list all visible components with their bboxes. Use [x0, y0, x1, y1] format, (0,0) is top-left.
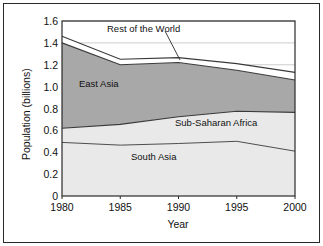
area-south-asia	[62, 141, 295, 196]
series-label-sub-saharan-africa: Sub-Saharan Africa	[175, 117, 257, 128]
chart-figure: 1.6 1.4 1.2 1.0 0.8 0.6 0.4 0.2 0 1980 1…	[0, 0, 323, 246]
x-tick-1980: 1980	[40, 201, 84, 213]
x-tick-1990: 1990	[157, 201, 201, 213]
y-tick-0.8: 0.8	[28, 103, 58, 115]
series-label-rest-of-the-world: Rest of the World	[107, 23, 180, 34]
series-label-south-asia: South Asia	[131, 151, 176, 162]
x-tick-1995: 1995	[215, 201, 259, 213]
y-tick-0.6: 0.6	[28, 124, 58, 136]
y-tick-1.0: 1.0	[28, 81, 58, 93]
x-tick-1985: 1985	[98, 201, 142, 213]
y-tick-0.2: 0.2	[28, 168, 58, 180]
x-tick-2000: 2000	[273, 201, 317, 213]
y-tick-1.6: 1.6	[28, 15, 58, 27]
y-axis-title: Population (billions)	[20, 68, 32, 160]
series-label-east-asia: East Asia	[79, 78, 119, 89]
y-tick-1.2: 1.2	[28, 59, 58, 71]
x-axis-title: Year	[118, 218, 238, 230]
y-tick-1.4: 1.4	[28, 37, 58, 49]
y-tick-0.4: 0.4	[28, 146, 58, 158]
